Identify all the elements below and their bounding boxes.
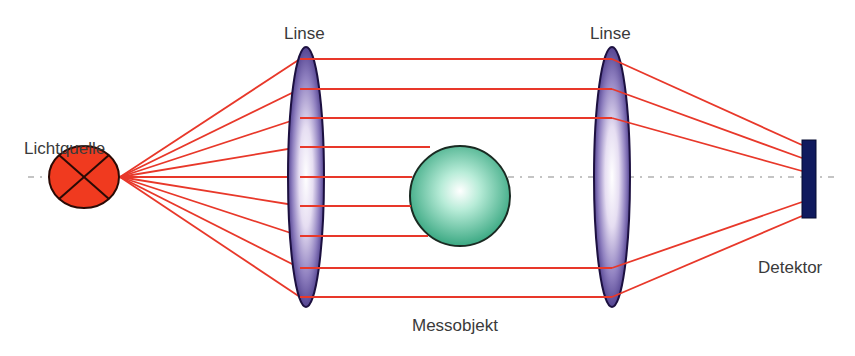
label-lens-left: Linse [284,24,325,44]
label-lens-right: Linse [590,24,631,44]
detector [802,140,816,218]
diverging-rays [120,59,300,297]
optical-diagram [0,0,855,356]
label-light-source: Lichtquelle [24,139,105,159]
measurement-object [410,146,510,246]
label-detector: Detektor [758,258,822,278]
label-object: Messobjekt [412,316,498,336]
